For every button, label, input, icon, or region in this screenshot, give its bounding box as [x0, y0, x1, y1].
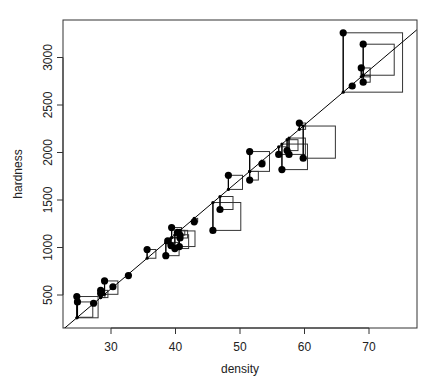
fitted-point	[362, 74, 365, 77]
data-point	[162, 252, 169, 259]
data-point	[97, 287, 104, 294]
y-tick-label: 1500	[41, 186, 55, 213]
y-tick-label: 2500	[41, 91, 55, 118]
fitted-point	[146, 257, 149, 260]
residual-square	[213, 203, 241, 231]
data-point	[285, 151, 292, 158]
x-tick-label: 50	[233, 340, 247, 354]
fitted-point	[298, 128, 301, 131]
fitted-point	[76, 316, 79, 319]
data-point	[275, 151, 282, 158]
data-point	[191, 218, 198, 225]
data-point	[168, 224, 175, 231]
fitted-point	[248, 170, 251, 173]
x-axis-title: density	[221, 362, 259, 376]
data-point	[349, 82, 356, 89]
fitted-point	[277, 145, 280, 148]
fitted-point	[287, 136, 290, 139]
data-point	[258, 160, 265, 167]
x-tick-label: 60	[298, 340, 312, 354]
y-axis: 50010001500200025003000	[41, 44, 63, 305]
data-point	[144, 246, 151, 253]
y-tick-label: 3000	[41, 44, 55, 71]
data-point	[360, 79, 367, 86]
residual-segments	[77, 33, 363, 318]
fitted-point	[280, 142, 283, 145]
x-tick-label: 30	[104, 340, 118, 354]
y-axis-title: hardness	[11, 149, 25, 198]
data-point	[360, 41, 367, 48]
data-point	[358, 64, 365, 71]
data-point	[225, 172, 232, 179]
y-tick-label: 2000	[41, 139, 55, 166]
data-point	[74, 298, 81, 305]
data-point	[296, 119, 303, 126]
fitted-point	[227, 188, 230, 191]
fitted-point	[342, 91, 345, 94]
data-point	[216, 206, 223, 213]
residual-square	[303, 126, 335, 158]
data-point	[246, 148, 253, 155]
data-point	[101, 277, 108, 284]
data-point	[278, 166, 285, 173]
y-tick-label: 500	[41, 285, 55, 305]
residual-squares-chart: 3040506070 50010001500200025003000 densi…	[0, 0, 433, 388]
data-point	[125, 272, 132, 279]
fitted-point	[218, 195, 221, 198]
residual-square	[363, 44, 394, 75]
data-point	[209, 227, 216, 234]
data-point	[300, 155, 307, 162]
x-tick-label: 40	[169, 340, 183, 354]
data-point	[176, 232, 183, 239]
x-tick-label: 70	[362, 340, 376, 354]
data-points	[73, 29, 367, 307]
y-tick-label: 1000	[41, 234, 55, 261]
data-point	[90, 300, 97, 307]
data-point	[340, 29, 347, 36]
data-point	[109, 283, 116, 290]
data-point	[176, 243, 183, 250]
x-axis: 3040506070	[104, 328, 376, 354]
fitted-point	[211, 201, 214, 204]
data-point	[246, 176, 253, 183]
